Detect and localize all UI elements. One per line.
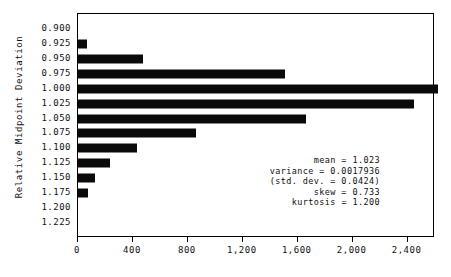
- x-axis-tick-label: 1,600: [282, 245, 312, 255]
- x-axis-tick-mark: [297, 237, 298, 242]
- statistic-line: skew = 0.733: [180, 187, 380, 198]
- y-axis-tick-label: 1.200: [24, 202, 71, 212]
- statistic-line: variance = 0.0017936: [180, 166, 380, 177]
- x-axis-tick-label: 2,400: [392, 245, 422, 255]
- histogram-figure: Relative Midpoint Deviation 0.9000.9250.…: [0, 0, 451, 277]
- x-axis-tick-mark: [187, 237, 188, 242]
- y-axis-tick-label: 1.150: [24, 172, 71, 182]
- x-axis-tick-label: 0: [74, 245, 80, 255]
- y-axis-tick-label: 1.175: [24, 187, 71, 197]
- bar: [78, 99, 414, 108]
- y-axis-tick-label: 1.000: [24, 83, 71, 93]
- y-axis-tick-label: 0.950: [24, 53, 71, 63]
- statistic-line: kurtosis = 1.200: [180, 197, 380, 208]
- x-axis-tick-mark: [132, 237, 133, 242]
- statistic-line: (std. dev. = 0.0424): [180, 176, 380, 187]
- x-axis-tick-label: 800: [178, 245, 196, 255]
- statistics-annotation: mean = 1.023variance = 0.0017936(std. de…: [180, 155, 380, 208]
- x-axis-tick-mark: [352, 237, 353, 242]
- x-axis-tick-label: 400: [123, 245, 141, 255]
- x-axis-tick-mark: [77, 237, 78, 242]
- x-axis-tick-mark: [242, 237, 243, 242]
- bar: [78, 54, 143, 63]
- bar: [78, 69, 285, 78]
- y-axis-tick-label: 1.100: [24, 142, 71, 152]
- bar: [78, 159, 110, 168]
- bar: [78, 84, 438, 93]
- bar: [78, 174, 95, 183]
- y-axis-tick-label: 1.075: [24, 127, 71, 137]
- bar: [78, 189, 88, 198]
- y-axis-tick-label: 1.125: [24, 157, 71, 167]
- y-axis-tick-label: 1.225: [24, 217, 71, 227]
- bar: [78, 144, 137, 153]
- x-axis-tick-label: 1,200: [227, 245, 257, 255]
- bar: [78, 39, 87, 48]
- x-axis-tick-mark: [407, 237, 408, 242]
- x-axis-tick-label: 2,000: [337, 245, 367, 255]
- y-axis-tick-label: 0.900: [24, 23, 71, 33]
- bar: [78, 114, 306, 123]
- bar: [78, 129, 196, 138]
- y-axis-tick-label: 0.925: [24, 38, 71, 48]
- y-axis-tick-label: 0.975: [24, 68, 71, 78]
- statistic-line: mean = 1.023: [180, 155, 380, 166]
- y-axis-tick-label: 1.050: [24, 113, 71, 123]
- y-axis-tick-label: 1.025: [24, 98, 71, 108]
